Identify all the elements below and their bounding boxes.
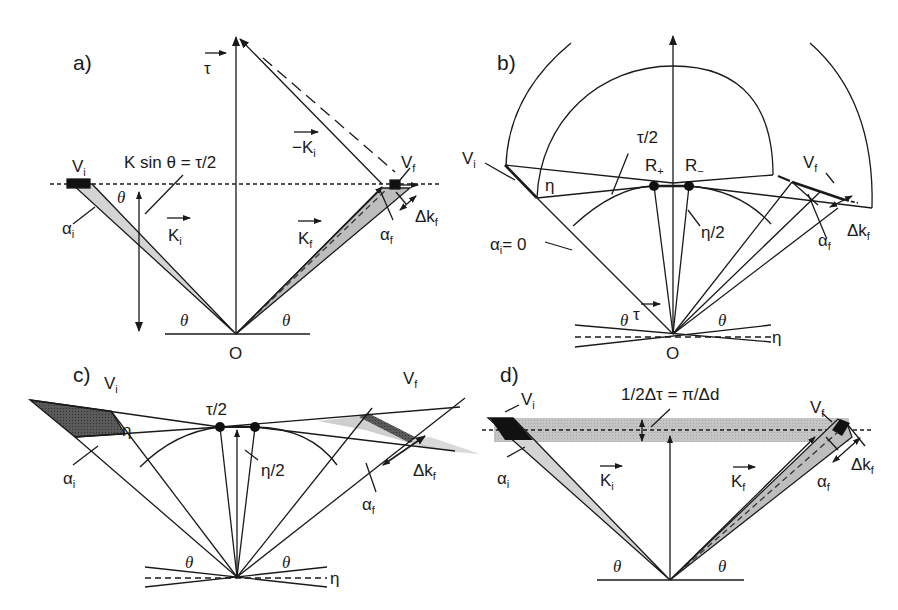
r-plus-point	[215, 422, 225, 432]
r-minus-point	[250, 422, 260, 432]
r-minus-ray	[673, 186, 689, 334]
alpha-i-leader	[73, 207, 95, 224]
panel-a	[50, 37, 440, 334]
panel-c	[30, 0, 480, 587]
alpha-f-label: αf	[362, 495, 376, 516]
theta-label-right: θ	[282, 311, 290, 330]
alpha-f-label: αf	[817, 472, 831, 493]
kf-label: Kf	[731, 472, 746, 493]
tau-half-label: τ/2	[637, 128, 658, 147]
theta-label-right: θ	[282, 553, 290, 572]
ray-r-minus	[237, 427, 255, 577]
eta-label-base: η	[330, 569, 339, 588]
delta-kf-label: Δkf	[847, 221, 871, 242]
theta-label-left: θ	[185, 553, 193, 572]
theta-label-right: θ	[718, 311, 726, 330]
eta-half-label: η/2	[701, 223, 725, 242]
vf-dash	[845, 200, 858, 203]
scattered-ray-2	[673, 192, 820, 334]
alpha-f-label: αf	[818, 231, 832, 252]
panel-a-label: a)	[73, 51, 92, 74]
vi-block	[67, 179, 90, 188]
minus-ki-label: −Ki	[292, 138, 316, 159]
tau-half-label: τ/2	[206, 400, 227, 419]
origin-label: O	[229, 344, 242, 363]
vi-label: Vi	[462, 149, 476, 170]
kf-vector	[670, 437, 815, 580]
ki-label: Ki	[600, 471, 614, 492]
r-plus-ray	[654, 186, 673, 334]
r-minus-point	[684, 181, 694, 191]
panel-d-label: d)	[500, 363, 519, 386]
panel-b	[485, 36, 872, 347]
vf-label: Vf	[810, 398, 825, 419]
origin-label: O	[666, 344, 679, 363]
ki-divergence-wedge	[488, 418, 670, 580]
delta-kf-label: Δkf	[415, 207, 439, 228]
r-minus-label: R−	[685, 156, 704, 177]
alpha-i-label: αi	[497, 469, 509, 490]
delta-kf-arrow	[400, 196, 416, 210]
vf-label: Vf	[803, 153, 818, 174]
outer-arc-right	[810, 43, 872, 208]
eta-half-label: η/2	[261, 461, 285, 480]
alpha-f-leader	[366, 463, 376, 492]
tau-label: τ	[633, 305, 640, 324]
ki-divergence-wedge	[72, 184, 236, 334]
vi-label: Vi	[72, 157, 86, 178]
theta-label-top: θ	[117, 188, 125, 207]
minus-ki-dashed	[263, 58, 395, 172]
delta-kf-label: Δkf	[851, 455, 875, 476]
equation-label: K sin θ = τ/2	[124, 153, 216, 172]
equation-label: 1/2Δτ = π/Δd	[621, 385, 719, 404]
kf-divergence-wedge	[236, 188, 410, 334]
vi-label: Vi	[521, 390, 535, 411]
scattered-ray-1	[673, 182, 792, 334]
eta-label: η	[122, 421, 131, 440]
kf-vector	[236, 187, 382, 334]
arc-left	[140, 427, 220, 467]
outer-arc-left	[506, 43, 571, 166]
alpha-i-leader	[507, 447, 525, 457]
vf-label: Vf	[401, 153, 416, 174]
ki-label: Ki	[168, 226, 182, 247]
panel-c-label: c)	[73, 363, 91, 386]
alpha-i-label: αi	[63, 469, 75, 490]
theta-label-right: θ	[718, 557, 726, 576]
theta-label-left: θ	[620, 311, 628, 330]
minus-ki-vector	[240, 39, 382, 184]
inner-arc-left	[573, 186, 654, 226]
vi-leader	[505, 405, 519, 412]
kf-label: Kf	[298, 229, 313, 250]
r-plus-point	[649, 181, 659, 191]
arc-right	[255, 427, 337, 465]
panel-d	[482, 405, 874, 580]
delta-kf-label: Δkf	[413, 461, 437, 482]
vi-label: Vi	[104, 374, 118, 395]
scattered-ray-3	[673, 208, 838, 334]
inner-arc-right	[689, 186, 771, 224]
vf-label: Vf	[403, 369, 418, 390]
theta-label-left: θ	[180, 311, 188, 330]
eta-label: η	[545, 176, 554, 195]
vf-leader	[826, 173, 834, 183]
alpha-i-leader	[73, 446, 98, 465]
figure-canvas: a) τ −Ki Vi Vf K sin θ = τ/2 θ Ki Kf αi …	[0, 0, 898, 610]
alpha-f-label: αf	[380, 225, 394, 246]
equation-leader	[145, 175, 183, 214]
vi-segment	[505, 165, 537, 198]
theta-label-left: θ	[613, 557, 621, 576]
ray-alpha-i	[75, 437, 237, 577]
tau-label: τ	[204, 59, 211, 78]
incident-line	[537, 198, 673, 334]
vf-segment	[792, 182, 845, 200]
vi-parallelogram	[30, 400, 125, 437]
panel-b-labels: b) Vi η τ/2 R+ R− η/2 αi= 0 Vf αf Δkf θ …	[462, 51, 871, 363]
vf-block	[390, 180, 400, 189]
ray-r-plus	[220, 427, 237, 577]
panel-b-label: b)	[497, 51, 516, 74]
r-plus-label: R+	[645, 156, 664, 177]
alpha-i-label: αi	[62, 219, 74, 240]
dash-segment	[778, 176, 790, 181]
eta-label-base: η	[772, 328, 781, 347]
